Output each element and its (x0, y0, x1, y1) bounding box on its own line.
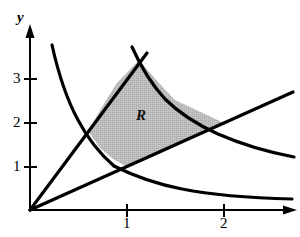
x-tick-label-1: 1 (123, 216, 131, 231)
y-tick-label-3: 3 (13, 71, 21, 86)
x-tick-label-2: 2 (220, 216, 228, 231)
math-figure: y 1 2 3 1 2 R (0, 0, 300, 237)
plot-canvas (0, 0, 300, 237)
x-axis-arrowhead (283, 206, 297, 215)
y-axis-label: y (17, 10, 24, 25)
hyperbola-xy-equals-1 (114, 166, 292, 199)
shaded-region-R (88, 60, 224, 167)
region-label-R: R (136, 108, 146, 123)
y-tick-label-1: 1 (13, 159, 21, 174)
y-axis-arrowhead (26, 24, 35, 38)
y-tick-label-2: 2 (13, 115, 21, 130)
